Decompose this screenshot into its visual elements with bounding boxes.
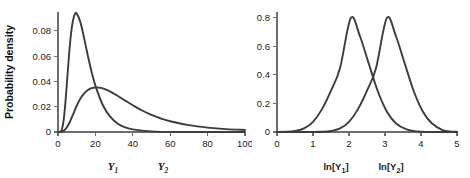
y-axis-ticks-left: 00.020.040.060.08: [33, 25, 59, 137]
x-tick-label: 0: [274, 138, 279, 149]
y-tick-label: 0: [265, 126, 270, 137]
series-label-ln-y1: ln[Y1]: [323, 161, 348, 175]
figure-container: Probability density 00.020.040.060.08 02…: [0, 0, 470, 178]
chart-panel-left: Probability density 00.020.040.060.08 02…: [0, 0, 252, 178]
x-tick-label: 80: [202, 138, 213, 149]
y-axis-title-left: Probability density: [3, 25, 15, 119]
y-axis-ticks-right: 00.20.40.60.8: [257, 12, 277, 137]
chart-panel-right: 00.20.40.60.8 012345 ln[Y1] ln[Y2]: [252, 0, 470, 178]
x-tick-label: 3: [382, 138, 387, 149]
series-label-y1: Y1: [108, 160, 118, 175]
right-chart-svg: 00.20.40.60.8 012345 ln[Y1] ln[Y2]: [252, 0, 470, 178]
curve-ln-y1: [277, 17, 457, 132]
left-chart-svg: Probability density 00.020.040.060.08 02…: [0, 0, 252, 178]
series-label-y2: Y2: [158, 160, 169, 175]
y-tick-label: 0.04: [33, 76, 52, 87]
y-tick-label: 0.08: [33, 25, 52, 36]
x-tick-label: 1: [310, 138, 315, 149]
x-tick-label: 40: [128, 138, 139, 149]
x-tick-label: 20: [90, 138, 101, 149]
y-tick-label: 0.06: [33, 51, 52, 62]
x-tick-label: 0: [55, 138, 60, 149]
y-tick-label: 0.02: [33, 101, 52, 112]
y-tick-label: 0.6: [257, 41, 270, 52]
curve-y2: [58, 87, 245, 132]
y-tick-label: 0.8: [257, 12, 270, 23]
series-label-ln-y2: ln[Y2]: [378, 161, 403, 175]
curve-ln-y2: [277, 17, 457, 132]
y-tick-label: 0.2: [257, 98, 270, 109]
x-axis-ticks-left: 020406080100: [55, 132, 252, 149]
x-tick-label: 100: [237, 138, 252, 149]
y-tick-label: 0: [46, 126, 51, 137]
x-tick-label: 60: [165, 138, 176, 149]
x-axis-ticks-right: 012345: [274, 132, 459, 149]
x-tick-label: 5: [454, 138, 459, 149]
x-tick-label: 4: [418, 138, 423, 149]
x-tick-label: 2: [346, 138, 351, 149]
y-tick-label: 0.4: [257, 69, 270, 80]
